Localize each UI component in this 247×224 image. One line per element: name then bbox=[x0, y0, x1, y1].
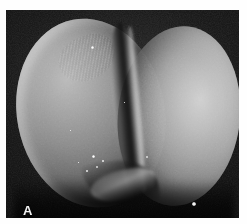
debris-particle-4 bbox=[102, 160, 104, 162]
debris-particle-8 bbox=[192, 202, 196, 206]
debris-particle-3 bbox=[86, 170, 88, 172]
micrograph-field: A bbox=[6, 10, 239, 218]
figure-panel: A bbox=[0, 0, 247, 224]
embryo bbox=[6, 10, 239, 218]
debris-particle-7 bbox=[146, 156, 148, 158]
panel-label: A bbox=[23, 204, 32, 217]
embryo-bottom-shadow bbox=[14, 180, 234, 218]
debris-particle-6 bbox=[91, 46, 94, 49]
